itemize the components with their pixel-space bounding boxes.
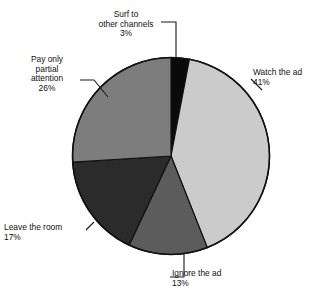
pie-chart-canvas <box>0 0 327 303</box>
pie-slices-group <box>72 57 269 254</box>
pie-slice-pay-only-partial-attention[interactable] <box>72 58 171 163</box>
pie-chart-figure: Surf to other channels 3% Watch the ad 4… <box>0 0 327 303</box>
slice-label-watch-the-ad: Watch the ad 41% <box>253 68 327 87</box>
slice-label-pay-only-partial-attention: Pay only partial attention 26% <box>16 55 78 93</box>
slice-label-surf-to-other-channels: Surf to other channels 3% <box>78 10 174 39</box>
slice-label-ignore-the-ad: Ignore the ad 13% <box>172 269 258 288</box>
slice-label-leave-the-room: Leave the room 17% <box>4 223 90 242</box>
